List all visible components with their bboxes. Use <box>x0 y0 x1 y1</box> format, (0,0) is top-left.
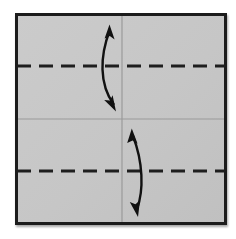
diagram-canvas <box>0 0 236 239</box>
origami-diagram <box>0 0 236 239</box>
